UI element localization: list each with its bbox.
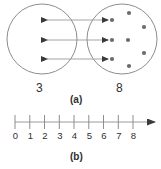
left-set-dot [41,57,45,61]
number-line-label-7: 7 [114,131,123,141]
right-set-dot [110,57,114,61]
number-line-label-0: 0 [11,131,20,141]
left-set-dot [41,38,45,42]
number-line-label-1: 1 [26,131,35,141]
right-set-size-label: 8 [116,82,123,94]
right-set-dot [142,25,146,29]
right-set-dot [126,38,130,42]
number-line-label-2: 2 [41,131,50,141]
right-set-dot [127,64,131,68]
right-set-dot [110,18,114,22]
number-line-label-4: 4 [70,131,79,141]
panel-a-caption: (a) [70,95,82,105]
left-set-size-label: 3 [36,82,43,94]
panel-b-caption: (b) [70,152,83,162]
number-line-label-5: 5 [85,131,94,141]
number-line-label-3: 3 [55,131,64,141]
right-set-circle [87,4,157,74]
number-line-label-6: 6 [100,131,109,141]
right-set-dot [110,38,114,42]
figure-root: 3 8 (a) 0 1 2 3 4 5 6 7 8 (b) [0,0,161,169]
right-set-dot [142,51,146,55]
number-line-label-8: 8 [129,131,138,141]
set-correspondence-figure [0,0,161,169]
left-set-dot [41,18,45,22]
right-set-dot [127,11,131,15]
